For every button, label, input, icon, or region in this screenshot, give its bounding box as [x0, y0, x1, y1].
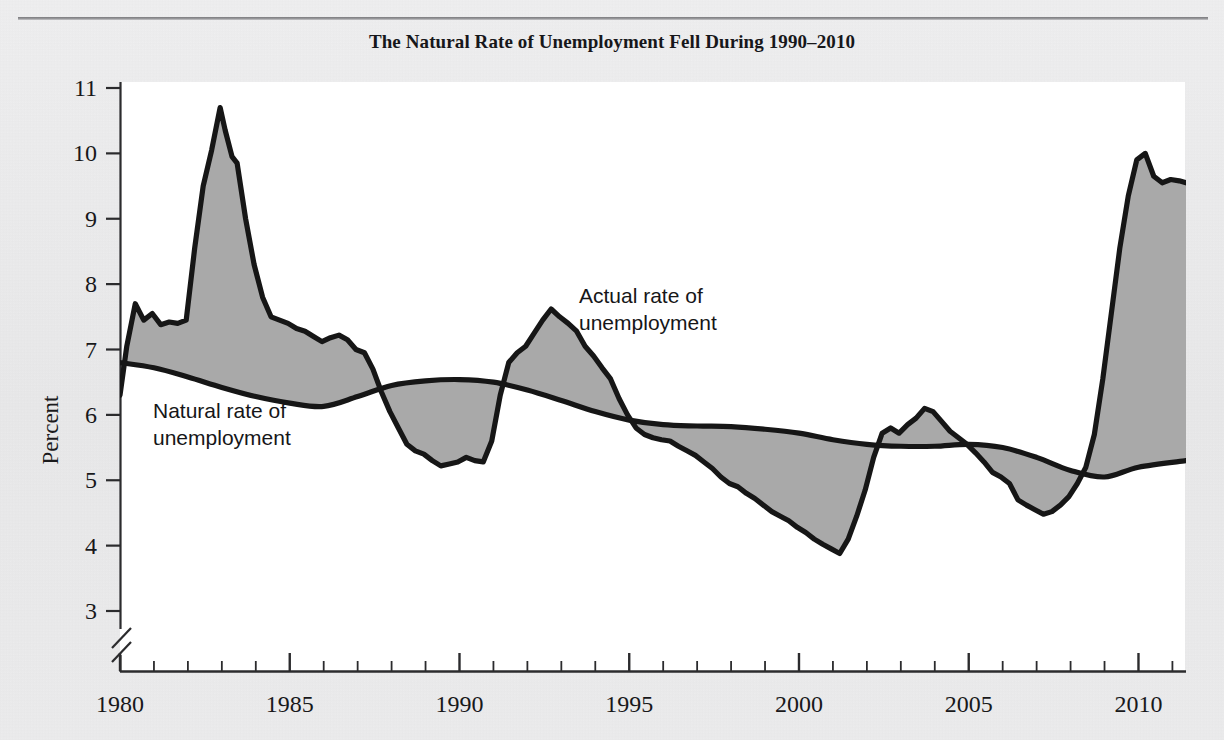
y-tick-label: 3	[85, 598, 97, 624]
chart-figure: The Natural Rate of Unemployment Fell Du…	[0, 0, 1224, 740]
y-tick-label: 6	[85, 402, 97, 428]
y-axis-ticks: 11109876543	[73, 75, 121, 624]
x-tick-label: 2010	[1114, 691, 1162, 717]
x-tick-label: 1985	[266, 691, 314, 717]
unemployment-line-chart: 11109876543 1980198519901995200020052010…	[0, 0, 1224, 740]
y-tick-label: 10	[73, 140, 97, 166]
natural-rate-label-line2: unemployment	[153, 426, 291, 449]
x-tick-label: 1980	[96, 691, 144, 717]
y-tick-label: 4	[85, 533, 97, 559]
x-tick-label: 2005	[945, 691, 993, 717]
y-tick-label: 11	[74, 75, 97, 101]
x-tick-label: 1995	[605, 691, 653, 717]
y-tick-label: 5	[85, 467, 97, 493]
y-tick-label: 7	[85, 337, 97, 363]
actual-rate-label-line1: Actual rate of	[579, 284, 703, 307]
y-axis-title: Percent	[38, 395, 63, 465]
natural-rate-label-line1: Natural rate of	[153, 399, 286, 422]
x-tick-label: 1990	[435, 691, 483, 717]
plot-area: 11109876543 1980198519901995200020052010…	[0, 0, 1224, 740]
actual-rate-label-line2: unemployment	[579, 311, 717, 334]
y-tick-label: 8	[85, 271, 97, 297]
x-tick-label: 2000	[775, 691, 823, 717]
y-tick-label: 9	[85, 206, 97, 232]
